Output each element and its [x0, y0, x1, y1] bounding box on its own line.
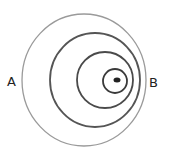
third-circle: [77, 52, 133, 108]
concentric-circles-diagram: A B: [0, 0, 169, 157]
center-dot: [114, 78, 121, 83]
label-b: B: [149, 75, 158, 90]
label-a: A: [7, 74, 16, 89]
